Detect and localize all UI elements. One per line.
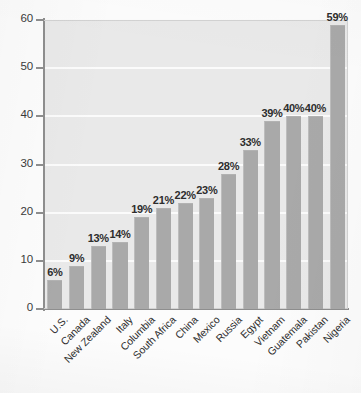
- bar[interactable]: [178, 203, 193, 309]
- y-axis-tick-labels: 0102030405060: [0, 0, 33, 393]
- bar-value-label: 39%: [261, 107, 282, 119]
- y-axis-tick-label: 0: [3, 301, 33, 313]
- y-axis-tick-label: 60: [3, 12, 33, 24]
- bar-slot: 28%: [221, 20, 236, 309]
- y-axis-tick: [36, 115, 44, 117]
- bar[interactable]: [69, 266, 84, 309]
- y-axis-tick-label: 40: [3, 108, 33, 120]
- bar-slot: 14%: [112, 20, 127, 309]
- plot-wrapper: 0102030405060 6%9%13%14%19%21%22%23%28%3…: [0, 0, 361, 393]
- bar-value-label: 28%: [218, 160, 239, 172]
- y-axis-tick: [36, 164, 44, 166]
- bar[interactable]: [134, 217, 149, 309]
- bar-slot: 9%: [69, 20, 84, 309]
- bar-slot: 40%: [308, 20, 323, 309]
- bar-value-label: 21%: [153, 194, 174, 206]
- y-axis-tick-label: 20: [3, 205, 33, 217]
- bar-slot: 59%: [330, 20, 345, 309]
- bar-value-label: 14%: [109, 228, 130, 240]
- bar[interactable]: [91, 246, 106, 309]
- bar[interactable]: [199, 198, 214, 309]
- bar[interactable]: [112, 242, 127, 309]
- bar-value-label: 23%: [196, 184, 217, 196]
- bar-slot: 13%: [91, 20, 106, 309]
- bar[interactable]: [243, 150, 258, 309]
- bar-slot: 22%: [178, 20, 193, 309]
- bar-slot: 33%: [243, 20, 258, 309]
- bar-value-label: 40%: [283, 102, 304, 114]
- y-axis-tick-label: 30: [3, 157, 33, 169]
- bar-slot: 39%: [264, 20, 279, 309]
- bar[interactable]: [264, 121, 279, 309]
- bar-series: 6%9%13%14%19%21%22%23%28%33%39%40%40%59%: [44, 20, 348, 309]
- bar-value-label: 19%: [131, 203, 152, 215]
- bar[interactable]: [308, 116, 323, 309]
- bar-chart-figure: 0102030405060 6%9%13%14%19%21%22%23%28%3…: [0, 0, 361, 393]
- y-axis-tick-label: 50: [3, 60, 33, 72]
- bar-slot: 6%: [47, 20, 62, 309]
- bar-slot: 23%: [199, 20, 214, 309]
- bar[interactable]: [286, 116, 301, 309]
- y-axis-tick: [36, 260, 44, 262]
- bar-value-label: 6%: [47, 266, 62, 278]
- bar[interactable]: [330, 25, 345, 309]
- bar-slot: 40%: [286, 20, 301, 309]
- bar-value-label: 40%: [305, 102, 326, 114]
- bar-slot: 19%: [134, 20, 149, 309]
- y-axis-tick: [36, 67, 44, 69]
- bar-value-label: 59%: [327, 11, 348, 23]
- bar-value-label: 9%: [69, 252, 84, 264]
- y-axis-tick-label: 10: [3, 253, 33, 265]
- y-axis-tick: [36, 308, 44, 310]
- y-axis-tick: [36, 19, 44, 21]
- bar-slot: 21%: [156, 20, 171, 309]
- bar-value-label: 33%: [240, 136, 261, 148]
- bar-value-label: 22%: [175, 189, 196, 201]
- bar-value-label: 13%: [88, 232, 109, 244]
- x-axis-category-labels: U.S.CanadaNew ZealandItalyColumbiaSouth …: [44, 312, 348, 393]
- bar[interactable]: [156, 208, 171, 309]
- y-axis-tick: [36, 212, 44, 214]
- bar[interactable]: [221, 174, 236, 309]
- bar[interactable]: [47, 280, 62, 309]
